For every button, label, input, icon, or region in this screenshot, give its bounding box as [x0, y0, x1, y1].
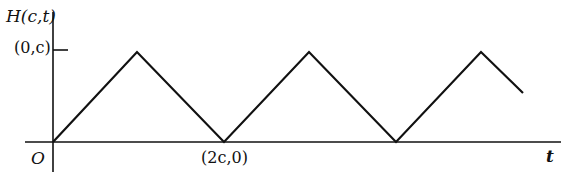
triangle-wave-plot — [0, 0, 561, 188]
x-tick-label: (2c,0) — [201, 148, 248, 167]
triangle-wave-line — [53, 52, 523, 142]
y-tick-label: (0,c) — [14, 38, 51, 57]
x-axis-label: t — [546, 146, 554, 166]
origin-label: O — [31, 148, 45, 168]
y-axis-label: H(c,t) — [6, 6, 56, 26]
